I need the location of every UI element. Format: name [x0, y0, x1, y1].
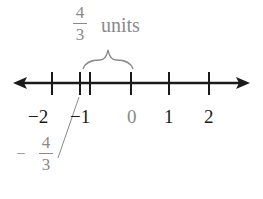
label-numerator: 4: [42, 133, 51, 152]
annotation-numerator: 4: [76, 3, 85, 22]
annotation-units: units: [101, 15, 140, 35]
label-minus-1: −1: [70, 107, 90, 126]
label-denominator: 3: [42, 155, 51, 174]
label-1: 1: [164, 107, 174, 126]
label-2: 2: [204, 107, 214, 126]
annotation-denominator: 3: [76, 25, 85, 44]
label-minus-2: −2: [28, 107, 48, 126]
label-minus-4-thirds: 4 3: [39, 134, 53, 173]
brace: [83, 50, 133, 69]
label-minus-sign: −: [16, 145, 26, 162]
fraction-bar: [73, 23, 87, 24]
annotation-fraction: 4 3: [73, 4, 87, 43]
label-0: 0: [127, 107, 137, 126]
fraction-bar: [39, 153, 53, 154]
